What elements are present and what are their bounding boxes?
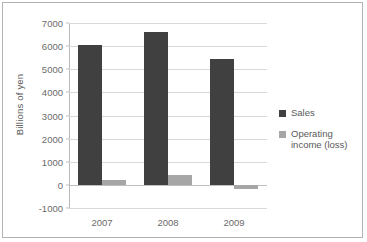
chart-legend: SalesOperating income (loss) (279, 107, 363, 160)
y-axis-tick-label: -1000 (39, 203, 63, 214)
bar-operating-income-loss-2007 (102, 180, 126, 185)
y-axis-tick-label: 2000 (42, 133, 63, 144)
y-axis-tick-label: 4000 (42, 87, 63, 98)
x-axis-category-label: 2007 (69, 217, 135, 228)
legend-item: Operating income (loss) (279, 128, 363, 151)
y-axis-tick-label: 6000 (42, 41, 63, 52)
bar-sales-2009 (210, 59, 234, 185)
bar-sales-2008 (144, 32, 168, 185)
plot-area: 70006000500040003000200010000-1000200720… (69, 23, 267, 208)
bar-operating-income-loss-2008 (168, 175, 192, 184)
legend-label: Operating income (loss) (291, 128, 363, 151)
chart-frame: Billions of yen 700060005000400030002000… (2, 2, 363, 238)
bar-sales-2007 (78, 45, 102, 185)
x-axis-category-label: 2008 (135, 217, 201, 228)
y-axis-tick-label: 3000 (42, 110, 63, 121)
y-axis-tick-label: 1000 (42, 156, 63, 167)
legend-item: Sales (279, 107, 363, 119)
gridline (69, 208, 267, 209)
bar-group: 2008 (135, 23, 201, 208)
y-axis-tick-label: 5000 (42, 64, 63, 75)
bar-group: 2009 (201, 23, 267, 208)
legend-swatch-icon (279, 131, 286, 138)
x-axis-category-label: 2009 (201, 217, 267, 228)
y-axis-title: Billions of yen (14, 45, 25, 165)
y-axis-tick-label: 0 (58, 179, 63, 190)
legend-label: Sales (291, 107, 315, 119)
y-axis-tick-label: 7000 (42, 18, 63, 29)
bar-chart: Billions of yen 700060005000400030002000… (3, 3, 362, 237)
bar-operating-income-loss-2009 (234, 185, 258, 189)
bar-group: 2007 (69, 23, 135, 208)
legend-swatch-icon (279, 110, 286, 117)
